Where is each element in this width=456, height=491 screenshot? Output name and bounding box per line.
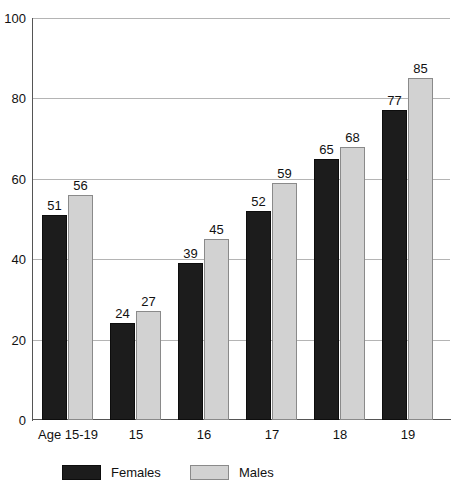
bar-value-males-19: 85 — [413, 62, 427, 75]
legend-label-females: Females — [111, 465, 161, 480]
bar-value-females-19: 77 — [387, 94, 401, 107]
bar-males-19: 85 — [408, 78, 433, 420]
bar-males-age-15-19: 56 — [68, 195, 93, 420]
y-axis-tick-label-0: 0 — [0, 414, 26, 427]
plot-area: 51 56 24 27 39 45 52 — [32, 18, 450, 420]
bar-females-16: 39 — [178, 263, 203, 420]
y-axis-tick-label-80: 80 — [0, 92, 26, 105]
bar-group-age-15-19: 51 56 — [42, 18, 93, 420]
y-axis-line — [32, 18, 33, 421]
bar-value-males-age-15-19: 56 — [73, 179, 87, 192]
y-axis-tick-label-60: 60 — [0, 173, 26, 186]
x-axis-tick-label-17: 17 — [265, 427, 279, 442]
bar-males-15: 27 — [136, 311, 161, 420]
bar-value-females-18: 65 — [319, 143, 333, 156]
bar-group-15: 24 27 — [110, 18, 161, 420]
bar-females-15: 24 — [110, 323, 135, 420]
bar-females-age-15-19: 51 — [42, 215, 67, 420]
bar-value-females-15: 24 — [115, 307, 129, 320]
y-axis-tick-label-100: 100 — [0, 12, 26, 25]
x-axis-tick-label-16: 16 — [197, 427, 211, 442]
bar-females-18: 65 — [314, 159, 339, 420]
x-axis-tick-label-19: 19 — [401, 427, 415, 442]
bar-value-males-16: 45 — [209, 223, 223, 236]
bar-value-males-15: 27 — [141, 295, 155, 308]
bar-group-17: 52 59 — [246, 18, 297, 420]
bar-value-females-16: 39 — [183, 247, 197, 260]
x-axis-tick-label-age-15-19: Age 15-19 — [38, 427, 98, 442]
x-axis-tick-label-15: 15 — [129, 427, 143, 442]
bar-chart: 100 80 60 40 20 0 51 56 24 27 — [0, 0, 456, 491]
bar-males-18: 68 — [340, 147, 365, 420]
bar-group-16: 39 45 — [178, 18, 229, 420]
bar-value-females-17: 52 — [251, 195, 265, 208]
y-axis-tick-label-40: 40 — [0, 253, 26, 266]
bar-value-males-17: 59 — [277, 167, 291, 180]
bar-group-18: 65 68 — [314, 18, 365, 420]
bar-females-17: 52 — [246, 211, 271, 420]
legend-label-males: Males — [239, 465, 274, 480]
bar-males-16: 45 — [204, 239, 229, 420]
bar-value-females-age-15-19: 51 — [47, 199, 61, 212]
bar-females-19: 77 — [382, 110, 407, 420]
y-axis-tick-label-20: 20 — [0, 334, 26, 347]
bar-group-19: 77 85 — [382, 18, 433, 420]
chart-legend: Females Males — [0, 463, 456, 485]
bar-males-17: 59 — [272, 183, 297, 420]
x-axis-tick-label-18: 18 — [333, 427, 347, 442]
bar-value-males-18: 68 — [345, 131, 359, 144]
legend-swatch-females-icon — [62, 465, 101, 480]
legend-swatch-males-icon — [190, 465, 229, 480]
